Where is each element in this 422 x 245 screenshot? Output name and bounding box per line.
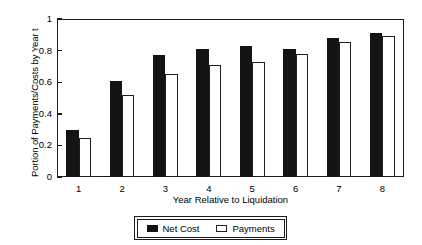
hollow-square-icon (216, 225, 227, 232)
y-tick-label: 0 (20, 171, 52, 183)
bar-group (187, 19, 230, 177)
bar-net-cost (327, 38, 339, 177)
bar-group (274, 19, 317, 177)
bar-group (231, 19, 274, 177)
bar-payments (209, 65, 221, 177)
y-tick-label: 1 (20, 13, 52, 25)
bar-group (144, 19, 187, 177)
bar-net-cost (196, 49, 208, 177)
y-tick-label: 0.8 (20, 45, 52, 57)
y-axis-title: Portion of Payments/Costs by Year t (30, 8, 40, 198)
bar-payments (122, 95, 134, 177)
bar-payments (165, 74, 177, 177)
y-tick-label: 0.6 (20, 76, 52, 88)
bar-group (57, 19, 100, 177)
legend-entry: Payments (216, 223, 274, 234)
legend-label: Payments (232, 223, 274, 234)
bar-group (361, 19, 404, 177)
bar-net-cost (370, 33, 382, 177)
bar-net-cost (110, 81, 122, 177)
bar-payments (79, 138, 91, 178)
bar-payments (382, 36, 394, 177)
legend-entries: Net CostPayments (137, 219, 285, 238)
y-tick-label: 0.4 (20, 108, 52, 120)
bar-net-cost (153, 55, 165, 177)
y-tick-label: 0.2 (20, 139, 52, 151)
legend-entry: Net Cost (147, 223, 200, 234)
bar-net-cost (283, 49, 295, 177)
bar-net-cost (66, 130, 78, 177)
filled-square-icon (147, 225, 158, 232)
bar-payments (339, 42, 351, 177)
x-axis-title: Year Relative to Liquidation (57, 194, 404, 206)
legend: Net CostPayments (134, 216, 287, 240)
bar-chart-figure: Portion of Payments/Costs by Year t 00.2… (0, 0, 422, 245)
bar-payments (296, 54, 308, 177)
bar-net-cost (240, 46, 252, 177)
bars-layer (57, 19, 404, 177)
legend-label: Net Cost (163, 223, 200, 234)
bar-payments (252, 62, 264, 177)
bar-group (100, 19, 143, 177)
bar-group (317, 19, 360, 177)
